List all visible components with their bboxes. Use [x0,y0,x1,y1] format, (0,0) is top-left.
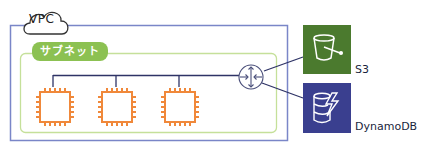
s3-label: S3 [355,63,369,76]
ec2-chip-icon [36,88,74,126]
subnet-label: サブネット [32,42,108,61]
ec2-chip-icon [98,88,136,126]
service-connectors [262,57,303,98]
subnet-bus-connector [53,75,240,87]
dynamodb-icon [303,83,351,133]
dynamodb-label: DynamoDB [355,120,417,133]
vpc-endpoint-router-icon [239,65,263,89]
vpc-label: VPC [29,12,54,26]
s3-bucket-icon [303,25,351,74]
ec2-chip-icon [161,88,199,126]
